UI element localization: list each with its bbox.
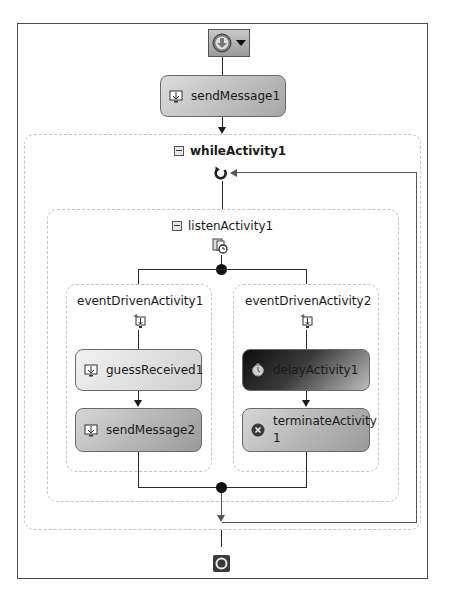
send-message-1-activity[interactable]: sendMessage1 (160, 75, 286, 117)
activity-label: sendMessage2 (106, 423, 195, 437)
activity-label: delayActivity1 (273, 363, 358, 377)
loop-back-line (222, 522, 416, 523)
connector (221, 530, 222, 547)
terminate-x-icon (251, 423, 265, 437)
connector (306, 269, 307, 284)
connector (222, 181, 223, 209)
loop-back-line (416, 172, 417, 523)
loop-refresh-icon (214, 166, 228, 180)
connector (221, 493, 222, 517)
while-activity-title[interactable]: whileActivity1 (174, 144, 286, 158)
activity-label: guessReceived1 (106, 363, 203, 377)
connector (138, 269, 139, 284)
connector (222, 57, 223, 75)
send-message-icon (169, 89, 183, 103)
guess-received-1-activity[interactable]: guessReceived1 (75, 349, 202, 391)
connector (306, 452, 307, 487)
start-button[interactable] (208, 29, 250, 57)
activity-label: terminateActivity 1 (273, 413, 377, 447)
event-driven-icon (131, 313, 147, 329)
receive-message-icon (84, 363, 98, 377)
connector (138, 452, 139, 487)
collapse-minus-icon[interactable] (172, 221, 182, 231)
arrow-down-icon (217, 515, 225, 522)
activity-label: sendMessage1 (191, 89, 280, 103)
terminate-activity-1-activity[interactable]: terminateActivity 1 (242, 408, 370, 452)
end-circle-icon (213, 555, 230, 572)
event-driven-activity-1-title: eventDrivenActivity1 (77, 294, 203, 308)
delay-activity-1-activity[interactable]: delayActivity1 (242, 349, 370, 391)
fork-line (138, 269, 306, 270)
clock-icon (251, 363, 265, 377)
event-driven-activity-2-title: eventDrivenActivity2 (245, 294, 371, 308)
connector (306, 330, 307, 349)
loop-back-line (236, 172, 416, 173)
send-message-2-activity[interactable]: sendMessage2 (75, 408, 202, 452)
arrow-down-icon (134, 400, 142, 407)
event-driven-icon (298, 313, 314, 329)
join-dot (216, 482, 227, 493)
connector (138, 330, 139, 349)
end-node[interactable] (213, 555, 230, 572)
start-arrow-down-icon (212, 33, 232, 53)
triangle-down-icon[interactable] (236, 40, 246, 48)
listen-activity-title[interactable]: listenActivity1 (172, 219, 273, 233)
listen-activity-icon (212, 238, 228, 254)
send-message-icon (84, 423, 98, 437)
collapse-minus-icon[interactable] (174, 146, 184, 156)
arrow-down-icon (218, 127, 226, 134)
arrow-left-icon (230, 169, 237, 177)
arrow-down-icon (302, 400, 310, 407)
